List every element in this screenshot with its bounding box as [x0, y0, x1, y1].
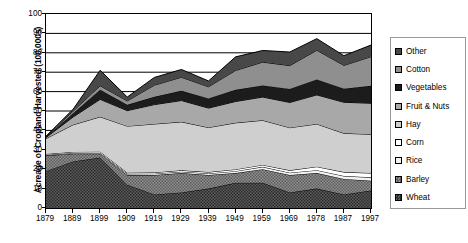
- y-axis-tick-20: 20: [18, 164, 42, 173]
- y-axis-tick-60: 60: [18, 86, 42, 95]
- legend-label-corn: Corn: [406, 138, 424, 147]
- y-axis-tick-90: 90: [18, 28, 42, 37]
- plot-area: [45, 13, 372, 209]
- y-axis-tick-0: 0: [18, 203, 42, 212]
- legend-swatch-barley: [395, 176, 402, 183]
- legend-swatch-other: [395, 48, 402, 55]
- area-layers: [46, 39, 371, 208]
- legend-swatch-fruit-nuts: [395, 103, 402, 110]
- x-tick-mark: [126, 209, 127, 213]
- legend-item-cotton[interactable]: Cotton: [395, 60, 465, 78]
- legend-item-corn[interactable]: Corn: [395, 133, 465, 151]
- y-axis-tick-80: 80: [18, 47, 42, 56]
- legend-item-fruit-nuts[interactable]: Fruit & Nuts: [395, 97, 465, 115]
- legend-swatch-vegetables: [395, 84, 402, 91]
- x-tick-mark: [235, 209, 236, 213]
- legend-swatch-wheat: [395, 194, 402, 201]
- x-tick-mark: [99, 209, 100, 213]
- y-axis-tick-30: 30: [18, 144, 42, 153]
- legend-label-fruit-nuts: Fruit & Nuts: [406, 102, 449, 111]
- x-tick-mark: [262, 209, 263, 213]
- legend-item-other[interactable]: Other: [395, 42, 465, 60]
- legend-label-barley: Barley: [406, 175, 429, 184]
- y-axis-tick-10: 10: [18, 183, 42, 192]
- x-tick-mark: [180, 209, 181, 213]
- x-tick-mark: [370, 209, 371, 213]
- legend-item-wheat[interactable]: Wheat: [395, 188, 465, 206]
- legend-swatch-corn: [395, 139, 402, 146]
- legend-item-hay[interactable]: Hay: [395, 115, 465, 133]
- y-axis-tick-40: 40: [18, 125, 42, 134]
- x-tick-mark: [316, 209, 317, 213]
- y-axis-tick-labels: 0102030405060708090100: [16, 0, 42, 243]
- x-axis-tick-1997: 1997: [350, 214, 390, 223]
- legend-label-vegetables: Vegetables: [406, 83, 447, 92]
- chart-legend: OtherCottonVegetablesFruit & NutsHayCorn…: [390, 37, 466, 209]
- legend-label-rice: Rice: [406, 156, 422, 165]
- x-tick-mark: [343, 209, 344, 213]
- x-tick-mark: [72, 209, 73, 213]
- legend-swatch-hay: [395, 121, 402, 128]
- x-tick-mark: [208, 209, 209, 213]
- legend-label-other: Other: [406, 47, 426, 56]
- legend-item-barley[interactable]: Barley: [395, 170, 465, 188]
- legend-label-wheat: Wheat: [406, 193, 430, 202]
- y-axis-tick-100: 100: [18, 9, 42, 18]
- stacked-area-svg: [46, 14, 371, 208]
- x-tick-mark: [45, 209, 46, 213]
- x-tick-mark: [289, 209, 290, 213]
- legend-item-vegetables[interactable]: Vegetables: [395, 79, 465, 97]
- x-tick-mark: [153, 209, 154, 213]
- y-axis-tick-50: 50: [18, 106, 42, 115]
- legend-item-rice[interactable]: Rice: [395, 152, 465, 170]
- chart-root: Acreage of Cropland Harvested (100,000s)…: [0, 0, 468, 243]
- y-axis-tick-70: 70: [18, 67, 42, 76]
- legend-label-cotton: Cotton: [406, 65, 430, 74]
- legend-swatch-cotton: [395, 66, 402, 73]
- legend-swatch-rice: [395, 157, 402, 164]
- legend-label-hay: Hay: [406, 120, 421, 129]
